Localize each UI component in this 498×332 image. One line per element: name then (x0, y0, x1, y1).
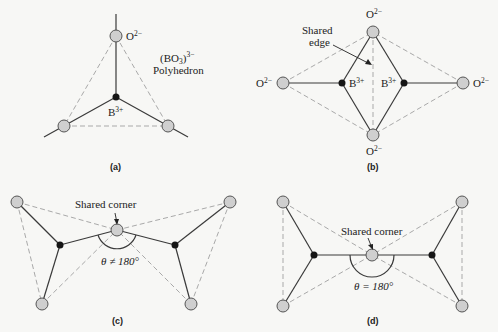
oxygen-atom (58, 120, 70, 132)
bond-line (117, 230, 175, 245)
bond-line (342, 83, 373, 135)
oxygen-atom (367, 129, 379, 141)
boron-label: B3+ (108, 105, 123, 118)
oxygen-atom (224, 196, 236, 208)
panel-c: Shared corner θ ≠ 180° (c) (11, 196, 236, 326)
oxygen-atom (185, 298, 197, 310)
boron-atom (311, 252, 318, 259)
caption-a: (a) (110, 162, 121, 172)
shared-corner-label: Shared corner (75, 198, 137, 210)
bond-line (175, 245, 191, 304)
bond-line (60, 230, 117, 245)
bond-line (17, 202, 60, 245)
oxygen-label: O2− (126, 29, 142, 42)
panel-a: O2− B3+ (BO3)3− Polyhedron (a) (44, 14, 204, 172)
shared-edge-label: Shared (302, 24, 333, 36)
shared-corner-label: Shared corner (341, 225, 403, 237)
angle-label: θ = 180° (354, 280, 394, 292)
oxygen-atom (36, 298, 48, 310)
polyhedron-edge (116, 36, 168, 126)
polyhedron-edge (373, 83, 463, 135)
oxygen-atom (162, 120, 174, 132)
oxygen-atom (277, 300, 289, 312)
oxygen-atom (277, 77, 289, 89)
polyhedron-edge (283, 83, 373, 135)
oxygen-atom (457, 77, 469, 89)
bond-line (116, 97, 188, 137)
bond-line (373, 83, 404, 135)
bond-line (283, 255, 314, 306)
oxygen-atom (110, 30, 122, 42)
shared-oxygen-atom (366, 249, 378, 261)
boron-atom (339, 80, 346, 87)
shared-edge-arrow (333, 45, 370, 64)
panel-b: O2− O2− O2− O2− B3+ B3+ Shared edge (b) (256, 7, 489, 172)
shared-oxygen-atom (111, 224, 123, 236)
bond-line (44, 97, 116, 137)
shared-edge-label: edge (309, 36, 330, 48)
angle-label: θ ≠ 180° (101, 255, 139, 267)
polyhedron-edge (17, 202, 42, 304)
oxygen-atom (456, 196, 468, 208)
boron-label: B3+ (349, 76, 364, 89)
angle-arc (98, 235, 136, 249)
polyhedron-label: Polyhedron (153, 64, 204, 76)
oxygen-atom (456, 300, 468, 312)
boron-atom (429, 252, 436, 259)
boron-atom (172, 242, 179, 249)
bond-line (283, 202, 314, 255)
oxygen-label: O2− (366, 144, 382, 157)
oxygen-atom (367, 26, 379, 38)
polyhedron-edge (373, 32, 463, 83)
boron-atom (57, 242, 64, 249)
caption-b: (b) (367, 162, 379, 172)
oxygen-label: O2− (473, 76, 489, 89)
boron-atom (401, 80, 408, 87)
oxygen-atom (277, 196, 289, 208)
bond-line (432, 255, 462, 306)
caption-c: (c) (112, 316, 123, 326)
oxygen-label: O2− (366, 7, 382, 20)
oxygen-label: O2− (256, 76, 272, 89)
caption-d: (d) (367, 316, 379, 326)
oxygen-atom (11, 196, 23, 208)
boron-label: B3+ (381, 76, 396, 89)
panel-d: Shared corner θ = 180° (d) (277, 196, 468, 326)
bond-line (432, 202, 462, 255)
boron-atom (113, 94, 120, 101)
borate-polyhedra-diagram: O2− B3+ (BO3)3− Polyhedron (a) O2− O2− O… (0, 0, 498, 332)
